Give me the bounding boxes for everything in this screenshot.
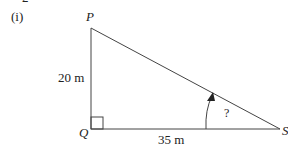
side-pq-length: 20 m xyxy=(58,71,84,84)
vertex-s-label: S xyxy=(282,124,288,137)
vertex-q-label: Q xyxy=(79,126,88,139)
side-ps-hypotenuse xyxy=(91,28,280,129)
vertex-p-label: P xyxy=(86,10,94,23)
unknown-angle-label: ? xyxy=(224,107,229,119)
triangle-diagram xyxy=(0,0,288,147)
right-angle-marker xyxy=(91,117,103,129)
side-qs-length: 35 m xyxy=(158,133,184,146)
